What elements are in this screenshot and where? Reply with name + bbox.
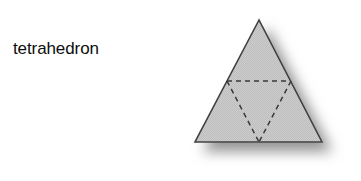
tetrahedron-drawing [178, 6, 350, 174]
tetrahedron-figure [178, 6, 350, 174]
page-title: tetrahedron [13, 39, 99, 59]
figure-page: tetrahedron [0, 0, 361, 181]
